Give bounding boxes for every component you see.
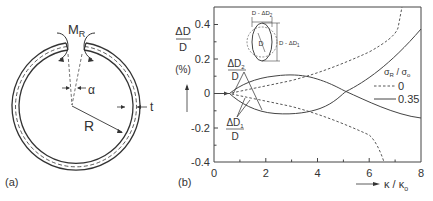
- inset-center-label: D: [258, 40, 263, 47]
- panel-a-arrowheads: [58, 57, 141, 133]
- svg-text:D: D: [231, 131, 238, 142]
- inset-top-label: D - ΔD2: [252, 10, 273, 18]
- svg-text:6: 6: [366, 167, 372, 179]
- panel-a-label: (a): [5, 176, 18, 188]
- y-ticks: [214, 25, 218, 146]
- delta-d2-label: ΔD2 D: [227, 58, 246, 82]
- x-axis-label: κ / κo: [356, 178, 408, 192]
- svg-text:-0.4: -0.4: [191, 156, 210, 168]
- svg-text:ΔD: ΔD: [175, 25, 190, 37]
- legend-entry-0: 0: [398, 80, 404, 92]
- figure: MR α R t (a) 0.4 0.2 0 -0.2 -0.4 0 2: [0, 0, 433, 201]
- series-d2-sigma0: [214, 7, 402, 94]
- zero-arrowhead: [224, 92, 229, 96]
- y-tick-labels: 0.4 0.2 0 -0.2 -0.4: [191, 18, 210, 168]
- inset-ellipse-diagram: [247, 17, 280, 61]
- svg-text:0.2: 0.2: [195, 53, 210, 65]
- svg-text:0: 0: [204, 87, 210, 99]
- svg-text:8: 8: [418, 167, 424, 179]
- svg-text:ΔD2: ΔD2: [227, 58, 245, 70]
- svg-text:0.4: 0.4: [195, 18, 210, 30]
- svg-text:2: 2: [263, 167, 269, 179]
- x-ticks: [240, 158, 395, 162]
- svg-text:ΔD1: ΔD1: [226, 117, 244, 129]
- svg-text:D: D: [179, 41, 187, 53]
- moment-label: MR: [68, 22, 86, 39]
- svg-text:-0.2: -0.2: [191, 122, 210, 134]
- legend-entry-1: 0.35: [398, 93, 419, 105]
- legend-title: σR / σo: [384, 67, 411, 78]
- radius-label: R: [84, 118, 94, 134]
- panel-a-ring-diagram: [12, 33, 147, 170]
- svg-text:κ / κo: κ / κo: [384, 178, 408, 192]
- delta-d1-label: ΔD1 D: [226, 117, 244, 142]
- svg-text:(%): (%): [175, 64, 191, 75]
- svg-text:0: 0: [211, 167, 217, 179]
- panel-b-label: (b): [178, 176, 191, 188]
- inset-right-label: D - ΔD1: [279, 40, 300, 48]
- angle-label: α: [88, 83, 95, 97]
- series-d2-sigma035: [214, 75, 421, 118]
- svg-text:4: 4: [314, 167, 320, 179]
- thickness-label: t: [150, 100, 154, 114]
- legend: σR / σo 0 0.35: [374, 67, 419, 105]
- svg-text:D: D: [231, 71, 238, 82]
- y-axis-label: ΔD D (%): [175, 25, 191, 112]
- chart-curves: [214, 7, 421, 162]
- plot-axes: [214, 7, 421, 162]
